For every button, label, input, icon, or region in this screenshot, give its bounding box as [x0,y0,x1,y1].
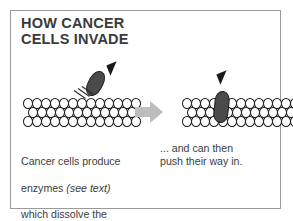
enzyme-lines-icon [72,88,98,108]
caption-left-line3: which dissolve the [21,208,107,220]
figure-container: HOW CANCER CELLS INVADE [0,0,293,221]
figure-title: HOW CANCER CELLS INVADE [21,16,181,47]
arrowhead-icon [216,70,230,84]
caption-left-line2-prefix: enzymes [21,182,66,194]
caption-left: Cancer cells produce enzymes (see text) … [21,142,146,221]
caption-left-line2-italic: (see text) [66,182,110,194]
transition-arrow-icon [135,101,163,123]
cell-row [23,116,140,127]
diagram-illustration [10,58,281,138]
caption-left-line1: Cancer cells produce [21,155,121,167]
cell [290,116,293,127]
cell-row [182,116,293,127]
arrowhead-icon [106,61,120,75]
caption-right: ... and can then push their way in. [160,142,270,168]
